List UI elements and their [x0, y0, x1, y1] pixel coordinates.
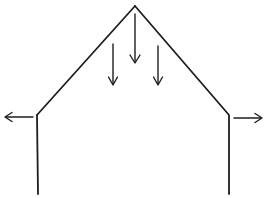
outward-arrow-left [5, 113, 33, 122]
left-wall [37, 115, 38, 194]
roof-left-slope [37, 6, 135, 115]
down-arrow-right [154, 46, 163, 85]
roof-thrust-diagram [0, 0, 264, 198]
roof-right-slope [135, 6, 229, 115]
down-arrow-center [130, 14, 140, 63]
down-arrow-left [109, 44, 118, 85]
outward-arrow-right [234, 114, 262, 123]
